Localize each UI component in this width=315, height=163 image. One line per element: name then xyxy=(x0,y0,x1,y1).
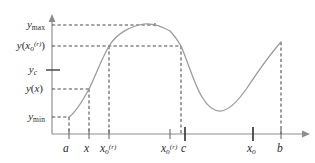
x-label-c-text: c xyxy=(181,142,186,154)
x-o-subscript: o xyxy=(252,147,256,156)
x-axis-label-x: x xyxy=(84,143,89,155)
horizontal-guides-group xyxy=(52,25,181,117)
x-label-b-text: b xyxy=(277,142,283,154)
y-axis-label-y-of-x-o-r: y(xo(r)) xyxy=(17,40,45,53)
x-axis-label-x-o-r-2: xo(r) xyxy=(161,143,177,156)
x-axis-label-b: b xyxy=(277,143,283,155)
x-axis-label-x-o: xo xyxy=(247,143,256,156)
x-axis-label-c: c xyxy=(181,143,186,155)
x-o-r-2-superscript: (r) xyxy=(170,143,177,151)
figure-container: ymax y(xo(r)) yc y(x) ymin a x xo(r) xo(… xyxy=(0,0,315,163)
axes-group xyxy=(49,14,310,138)
x-axis-arrowhead xyxy=(302,131,310,138)
x-label-a-text: a xyxy=(63,142,69,154)
y-of-x-close-paren: ) xyxy=(39,82,43,94)
y-axis-label-y-c: yc xyxy=(29,64,37,77)
function-curve xyxy=(69,24,281,117)
x-label-x-text: x xyxy=(84,142,89,154)
y-max-subscript: max xyxy=(32,23,45,32)
y-axis-label-y-min: ymin xyxy=(28,111,45,124)
x-o-r-1-superscript: (r) xyxy=(109,143,116,151)
x-axis-label-a: a xyxy=(63,143,69,155)
y-axis-arrowhead xyxy=(49,14,56,22)
y-min-subscript: min xyxy=(33,115,45,124)
x-axis-label-x-o-r-1: xo(r) xyxy=(100,143,116,156)
vertical-guides-group xyxy=(69,23,281,134)
y-axis-label-y-max: ymax xyxy=(27,19,45,32)
y-c-subscript: c xyxy=(34,68,37,77)
y-xor-close-paren: ) xyxy=(41,39,45,51)
y-axis-label-y-of-x: y(x) xyxy=(26,83,43,94)
plot-canvas xyxy=(0,0,315,163)
